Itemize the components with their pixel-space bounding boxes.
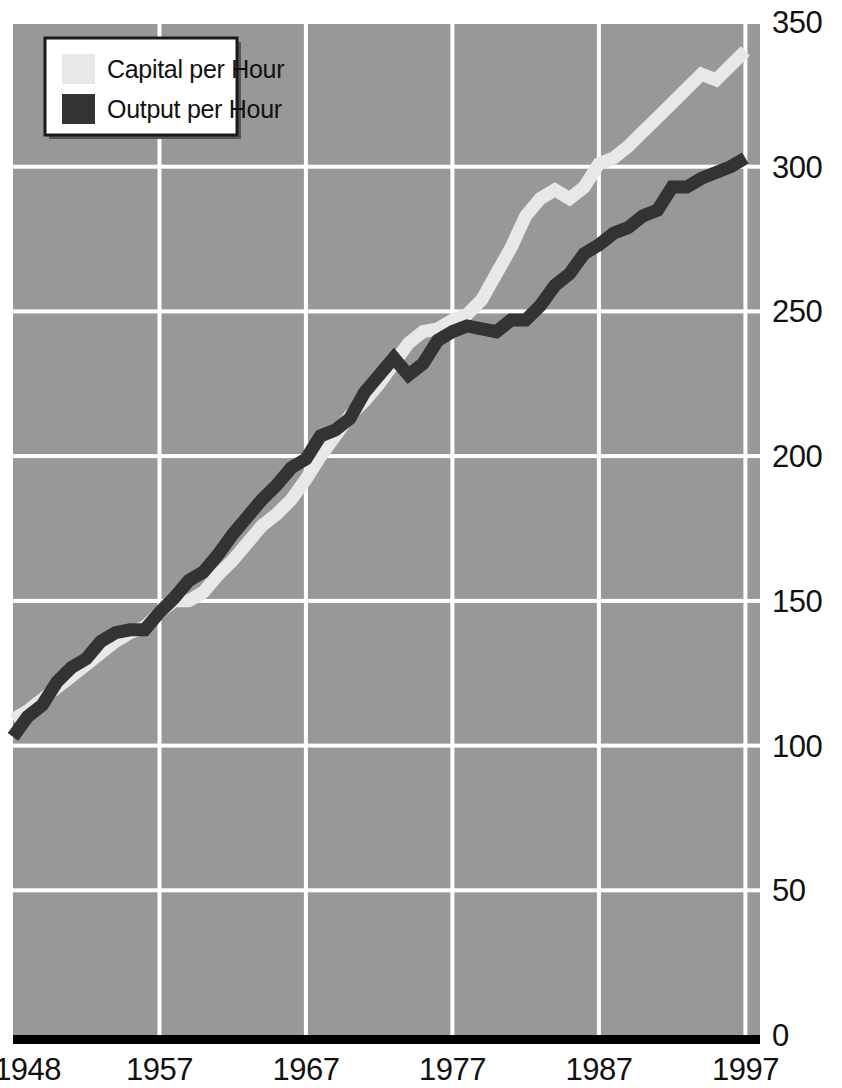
y-tick-label: 250: [772, 294, 822, 329]
y-tick-label: 300: [772, 150, 822, 185]
legend-swatch-capital-per-hour: [62, 54, 95, 84]
y-tick-label: 200: [772, 439, 822, 474]
legend-label-output-per-hour: Output per Hour: [107, 95, 282, 123]
legend-label-capital-per-hour: Capital per Hour: [107, 55, 284, 83]
plot-area-background: [13, 22, 760, 1035]
gridline-horizontal: [13, 20, 760, 24]
gridline-horizontal: [13, 744, 760, 748]
x-tick-label: 1987: [565, 1052, 632, 1087]
y-tick-label: 50: [772, 873, 806, 908]
y-tick-label: 350: [772, 5, 822, 40]
x-tick-label: 1967: [272, 1052, 339, 1087]
gridline-horizontal: [13, 165, 760, 169]
x-tick-label: 1957: [126, 1052, 193, 1087]
x-tick-label: 1948: [0, 1052, 61, 1087]
y-tick-label: 100: [772, 729, 822, 764]
line-chart: 050100150200250300350 194819571967197719…: [0, 0, 842, 1088]
x-axis-baseline: [13, 1035, 760, 1044]
gridline-horizontal: [13, 599, 760, 603]
gridline-vertical: [158, 22, 162, 1035]
gridline-vertical: [743, 22, 747, 1035]
chart-container: 050100150200250300350 194819571967197719…: [0, 0, 842, 1088]
x-tick-label: 1997: [712, 1052, 779, 1087]
gridline-horizontal: [13, 454, 760, 458]
gridline-vertical: [450, 22, 454, 1035]
legend-swatch-output-per-hour: [62, 94, 95, 124]
gridline-horizontal: [13, 888, 760, 892]
y-tick-label: 150: [772, 584, 822, 619]
gridline-horizontal: [13, 309, 760, 313]
gridline-vertical: [304, 22, 308, 1035]
y-tick-label: 0: [772, 1018, 789, 1053]
x-tick-label: 1977: [419, 1052, 486, 1087]
